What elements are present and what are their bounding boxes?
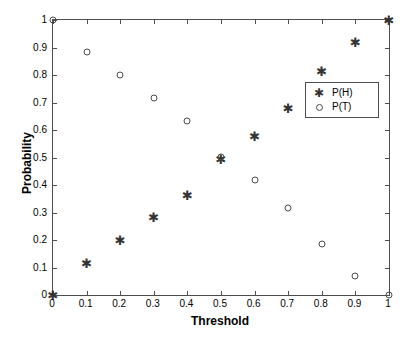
y-axis-tick-right [385, 185, 389, 186]
x-tick-label: 0.1 [79, 298, 93, 309]
y-axis-tick [53, 103, 57, 104]
y-axis-tick [53, 240, 57, 241]
legend-entry-ph: ✱ P(H) [306, 86, 378, 100]
y-axis-tick-right [385, 75, 389, 76]
x-axis-tick-top [255, 20, 256, 24]
x-tick-label: 0.2 [112, 298, 126, 309]
y-tick-label: 0 [41, 289, 47, 300]
x-axis-tick [221, 291, 222, 295]
y-axis-tick [53, 213, 57, 214]
figure-canvas: ✱✱✱✱✱✱✱✱✱✱✱ Probability Threshold ✱ P(H)… [0, 0, 405, 341]
x-axis-tick [389, 291, 390, 295]
y-axis-tick-right [385, 130, 389, 131]
data-point-ph: ✱ [283, 103, 294, 114]
data-point-ph: ✱ [216, 153, 227, 164]
y-axis-tick [53, 295, 57, 296]
x-axis-tick [355, 291, 356, 295]
x-axis-tick [322, 291, 323, 295]
circle-marker-icon [306, 100, 332, 114]
x-axis-label: Threshold [52, 314, 388, 328]
data-point-pt [218, 153, 225, 160]
y-axis-tick-right [385, 240, 389, 241]
y-tick-label: 0.8 [33, 69, 47, 80]
y-tick-label: 0.4 [33, 179, 47, 190]
data-point-pt [117, 72, 124, 79]
x-tick-label: 0.7 [280, 298, 294, 309]
data-point-pt [150, 94, 157, 101]
x-axis-tick [120, 291, 121, 295]
x-axis-tick [288, 291, 289, 295]
x-axis-tick [154, 291, 155, 295]
y-axis-tick [53, 130, 57, 131]
data-point-ph: ✱ [316, 66, 327, 77]
x-axis-tick-top [355, 20, 356, 24]
x-axis-tick-top [322, 20, 323, 24]
asterisk-marker-icon: ✱ [306, 86, 332, 100]
y-axis-tick-right [385, 103, 389, 104]
x-axis-tick-top [187, 20, 188, 24]
y-axis-tick [53, 158, 57, 159]
y-axis-tick-right [385, 213, 389, 214]
data-point-ph: ✱ [148, 212, 159, 223]
y-tick-label: 0.6 [33, 124, 47, 135]
y-axis-tick-right [385, 268, 389, 269]
x-tick-label: 0.6 [247, 298, 261, 309]
y-tick-label: 0.9 [33, 41, 47, 52]
data-point-ph: ✱ [249, 131, 260, 142]
data-point-ph: ✱ [115, 235, 126, 246]
x-tick-label: 0.5 [213, 298, 227, 309]
y-tick-label: 0.7 [33, 96, 47, 107]
y-axis-tick-right [385, 158, 389, 159]
y-tick-label: 0.5 [33, 151, 47, 162]
x-axis-tick [87, 291, 88, 295]
legend-label-pt: P(T) [332, 100, 351, 114]
x-tick-label: 0.3 [146, 298, 160, 309]
data-point-pt [83, 48, 90, 55]
data-point-ph: ✱ [350, 36, 361, 47]
x-axis-tick [255, 291, 256, 295]
legend: ✱ P(H) P(T) [305, 82, 379, 118]
x-axis-tick-top [288, 20, 289, 24]
x-axis-tick-top [87, 20, 88, 24]
y-axis-tick [53, 268, 57, 269]
x-tick-label: 0.8 [314, 298, 328, 309]
legend-label-ph: P(H) [332, 86, 353, 100]
legend-entry-pt: P(T) [306, 100, 378, 114]
y-axis-tick-right [385, 48, 389, 49]
y-tick-label: 0.2 [33, 234, 47, 245]
y-axis-tick [53, 185, 57, 186]
x-axis-tick-top [154, 20, 155, 24]
data-point-pt [184, 117, 191, 124]
y-axis-tick [53, 48, 57, 49]
x-axis-tick [187, 291, 188, 295]
x-tick-label: 1 [385, 298, 391, 309]
x-tick-label: 0.4 [179, 298, 193, 309]
x-tick-label: 0.9 [347, 298, 361, 309]
y-tick-label: 0.3 [33, 206, 47, 217]
data-point-ph: ✱ [182, 189, 193, 200]
data-point-ph: ✱ [81, 258, 92, 269]
data-point-pt [251, 176, 258, 183]
y-tick-label: 0.1 [33, 261, 47, 272]
x-axis-tick-top [389, 20, 390, 24]
y-axis-tick [53, 75, 57, 76]
x-axis-tick-top [120, 20, 121, 24]
x-tick-label: 0 [49, 298, 55, 309]
y-axis-label: Probability [20, 83, 34, 243]
plot-area: ✱✱✱✱✱✱✱✱✱✱✱ [52, 19, 390, 296]
y-axis-tick-right [385, 295, 389, 296]
y-tick-label: 1 [41, 14, 47, 25]
y-axis-tick [53, 20, 57, 21]
y-axis-tick-right [385, 20, 389, 21]
x-axis-tick-top [221, 20, 222, 24]
data-point-pt [285, 205, 292, 212]
data-point-pt [318, 241, 325, 248]
data-point-pt [352, 272, 359, 279]
